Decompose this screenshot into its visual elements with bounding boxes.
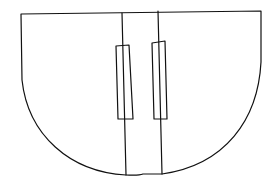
right-door-line — [158, 11, 162, 174]
cabinet-outline — [21, 11, 261, 175]
sketch-canvas — [0, 0, 280, 189]
left-door-line — [122, 13, 126, 175]
